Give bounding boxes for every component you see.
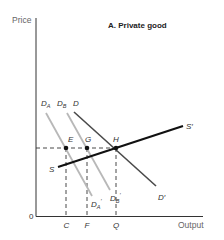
demand-b-label: DB [57,99,67,109]
x-axis-label: Output [178,220,204,230]
market-demand-end-label: D′ [158,193,166,202]
tick-q-label: Q [113,221,119,230]
private-good-chart: Price Output 0 A. Private good E G H C F… [0,0,224,240]
point-h-label: H [113,135,119,144]
y-axis-label: Price [12,15,32,25]
point-h [114,146,119,151]
demand-a-label: DA [41,99,51,109]
origin-label: 0 [29,212,34,221]
supply-start-label: S [49,165,55,174]
tick-f-label: F [85,221,91,230]
tick-c-label: C [64,221,70,230]
demand-b-end-label: DB′ [110,192,121,204]
demand-a-end-label: DA′ [91,198,102,210]
point-e-label: E [68,135,74,144]
market-demand-label: D [73,99,79,108]
point-g-label: G [85,135,91,144]
demand-a-curve [46,113,92,196]
supply-end-label: S′ [186,122,193,131]
chart-title: A. Private good [108,21,167,30]
point-g [85,146,90,151]
point-e [64,146,69,151]
